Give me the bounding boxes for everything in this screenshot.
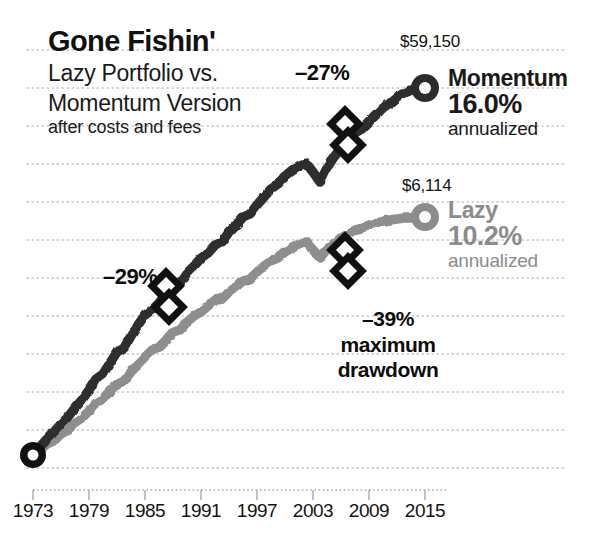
legend-momentum-note: annualized (448, 119, 567, 140)
legend-momentum-name: Momentum (448, 66, 567, 90)
annotation-lazy-drawdown-line2: maximum (313, 332, 463, 358)
legend-lazy-name: Lazy (448, 198, 538, 222)
annotation-momentum-drawdown-late: –27% (295, 60, 349, 86)
x-tick-label-5: 2003 (293, 500, 333, 522)
legend-momentum-percent: 16.0% (448, 90, 567, 119)
legend-momentum: Momentum 16.0% annualized (448, 66, 567, 140)
chart-figure: Gone Fishin' Lazy Portfolio vs. Momentum… (0, 0, 592, 544)
chart-subtitle-line2: Momentum Version (48, 90, 348, 116)
x-tick-label-7: 2015 (405, 500, 445, 522)
chart-subnote: after costs and fees (48, 118, 348, 138)
end-marker-lazy (411, 203, 439, 231)
end-marker-momentum (411, 74, 439, 102)
legend-lazy-percent: 10.2% (448, 222, 538, 251)
page-title: Gone Fishin' (48, 26, 348, 57)
x-tick-label-6: 2009 (349, 500, 389, 522)
annotation-lazy-max-drawdown: –39% maximum drawdown (313, 306, 463, 383)
annotation-momentum-drawdown-early: –29% (103, 264, 157, 290)
x-tick-label-1: 1979 (69, 500, 109, 522)
momentum-end-value: $59,150 (400, 32, 460, 52)
x-tick-label-3: 1991 (181, 500, 221, 522)
annotation-lazy-drawdown-pct: –39% (313, 306, 463, 332)
start-marker (20, 442, 46, 468)
drawdown-markers (152, 110, 362, 321)
x-tick-label-0: 1973 (13, 500, 53, 522)
x-tick-label-4: 1997 (237, 500, 277, 522)
annotation-lazy-drawdown-line3: drawdown (313, 357, 463, 383)
x-axis (33, 490, 448, 500)
legend-lazy: Lazy 10.2% annualized (448, 198, 538, 272)
x-tick-label-2: 1985 (125, 500, 165, 522)
legend-lazy-note: annualized (448, 251, 538, 272)
lazy-end-value: $6,114 (402, 176, 452, 196)
